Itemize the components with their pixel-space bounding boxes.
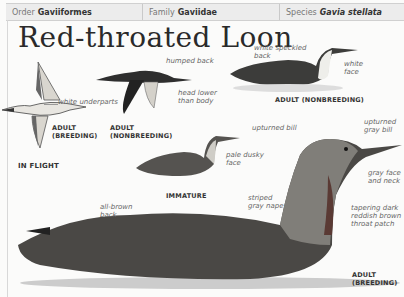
upturned-bill-annotation: upturned bill <box>252 124 297 132</box>
gray-face-neck-annotation-1: gray face <box>368 169 401 177</box>
species-cell: Species Gavia stellata <box>280 4 404 20</box>
striped-gray-nape-annotation-2: gray nape <box>248 202 283 210</box>
flight-nonbreeding-caption-1: ADULT <box>110 124 134 132</box>
head-lower-annotation-2: than body <box>178 97 213 105</box>
species-value: Gavia stellata <box>320 8 382 17</box>
taxonomy-header: Order Gaviiformes Family Gaviidae Specie… <box>6 3 404 21</box>
family-value: Gaviidae <box>178 8 217 17</box>
white-speckled-back-annotation-2: back <box>254 52 271 60</box>
all-brown-back-annotation-1: all-brown <box>100 203 132 211</box>
white-face-annotation-2: face <box>344 68 359 76</box>
striped-gray-nape-annotation-1: striped <box>248 194 272 202</box>
order-value: Gaviiformes <box>38 8 92 17</box>
order-cell: Order Gaviiformes <box>6 4 143 20</box>
adult-breeding-loon-illustration <box>10 135 404 290</box>
flight-breeding-caption-1: ADULT <box>52 124 76 132</box>
adult-breeding-caption-2: (BREEDING) <box>352 279 397 287</box>
adult-nonbreeding-caption: ADULT (NONBREEDING) <box>275 96 364 104</box>
order-label: Order <box>12 8 35 17</box>
white-speckled-back-annotation-1: white speckled <box>254 44 306 52</box>
upturned-gray-bill-annotation-2: gray bill <box>364 126 392 134</box>
upturned-gray-bill-annotation-1: upturned <box>364 118 396 126</box>
family-cell: Family Gaviidae <box>143 4 280 20</box>
adult-breeding-caption-1: ADULT <box>352 271 376 279</box>
throat-patch-annotation-1: tapering dark <box>351 204 398 212</box>
throat-patch-annotation-2: reddish brown <box>351 212 401 220</box>
all-brown-back-annotation-2: back <box>100 211 117 219</box>
throat-patch-annotation-3: throat patch <box>351 220 394 228</box>
species-label: Species <box>286 8 317 17</box>
family-label: Family <box>149 8 175 17</box>
humped-back-annotation: humped back <box>166 57 214 65</box>
gray-face-neck-annotation-2: and neck <box>368 177 400 185</box>
head-lower-annotation-1: head lower <box>178 89 217 97</box>
white-face-annotation-1: white <box>344 60 363 68</box>
annotation-leader <box>44 104 58 105</box>
